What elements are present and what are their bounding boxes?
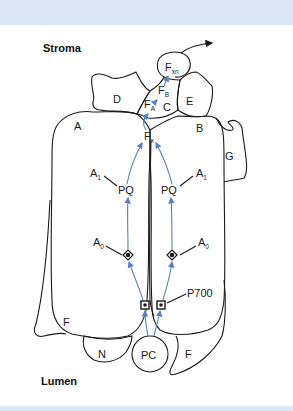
p700-right-icon — [157, 301, 165, 309]
label-e: E — [186, 95, 193, 107]
fb-label: FB — [158, 84, 169, 98]
p700-left-icon — [141, 301, 149, 309]
arrow-p700-to-a0-left — [129, 262, 143, 300]
pq-left-label: PQ — [118, 184, 134, 196]
p700-label: P700 — [187, 287, 213, 299]
a0-right-leader — [180, 246, 196, 255]
pq-right-label: PQ — [161, 184, 177, 196]
label-c: C — [163, 101, 171, 113]
a1-right-leader — [180, 176, 193, 186]
arrow-fa-to-fb — [153, 100, 157, 104]
label-f: F — [185, 348, 192, 360]
arrow-p700-to-a0-right — [163, 262, 172, 300]
fxn-group: Fxn — [157, 43, 212, 77]
a1-left-leader — [104, 176, 117, 186]
a0-left-leader — [106, 246, 122, 255]
fx-label: Fx — [144, 130, 155, 144]
label-b: B — [196, 122, 203, 134]
a0-right-label: A0 — [198, 236, 209, 250]
a1-right-label: A1 — [196, 167, 207, 181]
p700-leader — [167, 294, 186, 303]
photosystem-i-diagram: Stroma Lumen Fxn D C E A B G F N F PC FA… — [0, 0, 293, 411]
a0-left-label: A0 — [93, 236, 104, 250]
subunit-n — [83, 336, 132, 362]
stroma-label: Stroma — [43, 42, 82, 54]
arrow-pq-to-fx-right — [156, 143, 172, 184]
lumen-label: Lumen — [41, 375, 77, 387]
pc-label: PC — [141, 349, 156, 361]
label-a: A — [74, 120, 82, 132]
a1-left-label: A1 — [90, 167, 101, 181]
subunit-a — [51, 112, 150, 339]
label-n: N — [98, 348, 106, 360]
arrow-pq-to-fx-left — [127, 143, 142, 184]
fxn-label: Fxn — [165, 61, 179, 75]
subunit-e — [177, 72, 212, 117]
a0-right-chlorophyll-icon — [167, 250, 177, 260]
a0-left-chlorophyll-icon — [123, 250, 133, 260]
label-g: F — [63, 316, 70, 328]
label-d: D — [113, 93, 121, 105]
arrow-a0-to-pq-right — [171, 198, 172, 249]
subunit-g — [34, 200, 66, 336]
label-k: G — [225, 150, 234, 162]
fa-label: FA — [144, 98, 156, 112]
arrow-pc-to-p700-left — [145, 311, 148, 336]
